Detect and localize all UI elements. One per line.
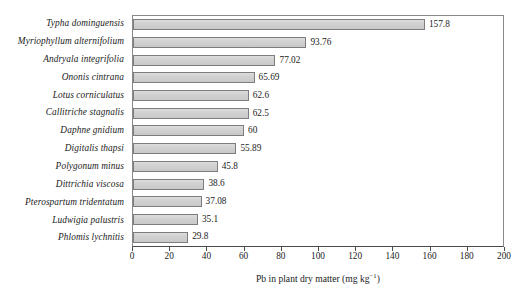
bar-value-label: 37.08: [202, 197, 227, 206]
x-axis-tick-label: 160: [423, 252, 437, 261]
bar: [133, 19, 425, 30]
x-axis-title: Pb in plant dry matter (mg kg−1): [132, 274, 504, 284]
bar: [133, 143, 236, 154]
category-label-row: Myriophyllum alternifolium: [0, 33, 128, 51]
bar-row: 55.89: [133, 140, 503, 158]
x-axis-tick-label: 0: [130, 252, 135, 261]
bar: [133, 179, 204, 190]
bar-value-label: 45.8: [218, 162, 238, 171]
bar-value-label: 55.89: [236, 144, 261, 153]
bar-value-label: 35.1: [198, 215, 218, 224]
category-label: Callitriche stagnalis: [46, 108, 124, 117]
bar-row: 93.76: [133, 34, 503, 52]
bar-row: 35.1: [133, 211, 503, 229]
x-axis-tick-label: 200: [497, 252, 511, 261]
category-label: Dittrichia viscosa: [56, 180, 124, 189]
x-axis-title-close: ): [377, 273, 380, 284]
category-label: Andryala integrifolia: [43, 55, 124, 64]
x-axis-tick-label: 80: [276, 252, 285, 261]
bar-row: 77.02: [133, 51, 503, 69]
bar-row: 60: [133, 122, 503, 140]
bar-chart-figure: Typha dominguensisMyriophyllum alternifo…: [0, 0, 524, 300]
bar-value-label: 77.02: [275, 56, 300, 65]
category-label-row: Pterospartum tridentatum: [0, 193, 128, 211]
bar-value-label: 157.8: [425, 20, 450, 29]
bar: [133, 125, 244, 136]
category-label-row: Dittrichia viscosa: [0, 176, 128, 194]
x-axis-tick-label: 60: [239, 252, 248, 261]
bar-value-label: 62.6: [249, 91, 269, 100]
category-label-row: Digitalis thapsi: [0, 140, 128, 158]
bar-series: 157.893.7677.0265.6962.662.56055.8945.83…: [133, 16, 503, 246]
category-label: Daphne gnidium: [60, 126, 124, 135]
category-label-row: Andryala integrifolia: [0, 51, 128, 69]
category-label-row: Ludwigia palustris: [0, 211, 128, 229]
x-axis: 020406080100120140160180200: [132, 247, 504, 273]
bar: [133, 214, 198, 225]
category-label: Ononis cintrana: [62, 73, 124, 82]
category-axis: Typha dominguensisMyriophyllum alternifo…: [0, 15, 128, 247]
bar: [133, 232, 188, 243]
bar-row: 29.8: [133, 228, 503, 246]
bar: [133, 72, 255, 83]
category-label-row: Phlomis lychnitis: [0, 229, 128, 247]
bar-value-label: 60: [244, 126, 257, 135]
bar-row: 45.8: [133, 158, 503, 176]
category-label-row: Daphne gnidium: [0, 122, 128, 140]
x-axis-tick-label: 40: [202, 252, 211, 261]
plot-area: 157.893.7677.0265.6962.662.56055.8945.83…: [132, 15, 504, 247]
bar: [133, 196, 202, 207]
x-axis-tick-label: 120: [348, 252, 362, 261]
x-axis-title-exponent: −1: [370, 272, 377, 279]
bar-value-label: 29.8: [188, 232, 208, 241]
category-label: Ludwigia palustris: [52, 216, 124, 225]
bar-row: 62.5: [133, 104, 503, 122]
x-axis-tick-label: 20: [165, 252, 174, 261]
category-label: Lotus corniculatus: [53, 91, 124, 100]
x-axis-tick-label: 140: [385, 252, 399, 261]
bar: [133, 161, 218, 172]
bar-row: 65.69: [133, 69, 503, 87]
category-label: Digitalis thapsi: [65, 144, 124, 153]
x-axis-title-text: Pb in plant dry matter (mg kg: [256, 273, 370, 284]
bar-value-label: 62.5: [249, 109, 269, 118]
category-label: Polygonum minus: [56, 162, 124, 171]
category-label-row: Typha dominguensis: [0, 15, 128, 33]
bar-value-label: 93.76: [306, 38, 331, 47]
category-label: Typha dominguensis: [46, 19, 124, 28]
bar-value-label: 38.6: [204, 179, 224, 188]
x-axis-tick-label: 180: [460, 252, 474, 261]
bar-row: 38.6: [133, 175, 503, 193]
bar-row: 62.6: [133, 87, 503, 105]
bar: [133, 90, 249, 101]
category-label-row: Callitriche stagnalis: [0, 104, 128, 122]
x-axis-tick-label: 100: [311, 252, 325, 261]
bar-value-label: 65.69: [255, 73, 280, 82]
category-label: Phlomis lychnitis: [58, 233, 124, 242]
category-label-row: Polygonum minus: [0, 158, 128, 176]
bar: [133, 108, 249, 119]
bar: [133, 55, 275, 66]
bar: [133, 37, 306, 48]
category-label: Myriophyllum alternifolium: [18, 37, 124, 46]
category-label-row: Lotus corniculatus: [0, 86, 128, 104]
bar-row: 37.08: [133, 193, 503, 211]
bar-row: 157.8: [133, 16, 503, 34]
category-label-row: Ononis cintrana: [0, 69, 128, 87]
category-label: Pterospartum tridentatum: [25, 198, 124, 207]
